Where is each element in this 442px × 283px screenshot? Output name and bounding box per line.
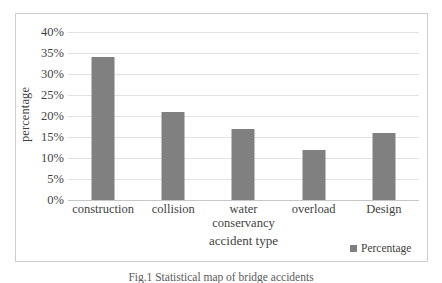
bar-slot: [138, 32, 208, 200]
plot-area: [68, 32, 419, 200]
x-axis-tick-label-line: construction: [72, 202, 134, 216]
bar-slot: [349, 32, 419, 200]
y-axis-tick-label: 40%: [18, 25, 64, 40]
y-axis-tick-label: 10%: [18, 151, 64, 166]
x-axis-tick-label: Design: [349, 203, 419, 217]
y-axis-tick-label: 25%: [18, 88, 64, 103]
bar-design: [372, 133, 395, 200]
y-axis-tick-label: 15%: [18, 130, 64, 145]
y-axis-tick-label: 0%: [18, 193, 64, 208]
y-axis-tick-label: 35%: [18, 46, 64, 61]
bar-slot: [208, 32, 278, 200]
x-axis-tick-label-line: conservancy: [208, 217, 278, 231]
bar-overload: [302, 150, 325, 200]
x-axis-tick-label: waterconservancy: [208, 203, 278, 230]
legend-label-percentage: Percentage: [361, 242, 411, 254]
x-axis-tick-label: overload: [279, 203, 349, 217]
x-axis-tick-label: collision: [138, 203, 208, 217]
x-axis-tick-label-line: water: [230, 202, 258, 216]
bar-slot: [68, 32, 138, 200]
x-axis-tick-label-line: overload: [292, 202, 336, 216]
y-axis-tick-label: 20%: [18, 109, 64, 124]
bar-series: [68, 32, 419, 200]
axis-baseline: [68, 200, 419, 201]
x-axis-tick-label: construction: [68, 203, 138, 217]
chart-legend: Percentage: [350, 242, 411, 254]
y-axis-tick-label: 30%: [18, 67, 64, 82]
bar-construction: [92, 57, 115, 200]
bar-slot: [279, 32, 349, 200]
figure-caption: Fig.1 Statistical map of bridge accident…: [0, 271, 442, 283]
y-axis-tick-labels: 40%35%30%25%20%15%10%5%0%: [16, 32, 64, 200]
x-axis-tick-label-line: Design: [366, 202, 401, 216]
bar-water-conservancy: [232, 129, 255, 200]
bar-collision: [162, 112, 185, 200]
y-axis-tick-label: 5%: [18, 172, 64, 187]
x-axis-tick-label-line: collision: [152, 202, 195, 216]
x-axis-tick-labels: constructioncollisionwaterconservancyove…: [68, 203, 419, 233]
legend-swatch-percentage: [350, 245, 357, 252]
